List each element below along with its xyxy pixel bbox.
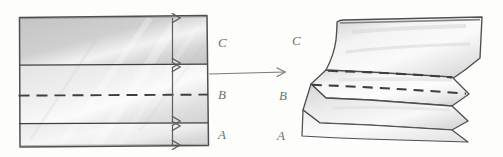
label-a-right: A bbox=[276, 128, 285, 143]
label-c-right: C bbox=[292, 33, 301, 48]
transition-arrow bbox=[209, 72, 285, 74]
label-b-right: B bbox=[279, 88, 287, 103]
right-diagram: C B A bbox=[276, 17, 482, 143]
folded-layer-c bbox=[326, 17, 482, 79]
left-diagram: C B A bbox=[19, 16, 228, 148]
label-c-left: C bbox=[218, 35, 227, 50]
label-b-left: B bbox=[218, 87, 226, 102]
label-a-left: A bbox=[217, 127, 226, 142]
sketch-figure: C B A bbox=[0, 0, 503, 157]
sketch-canvas: C B A bbox=[0, 0, 503, 157]
